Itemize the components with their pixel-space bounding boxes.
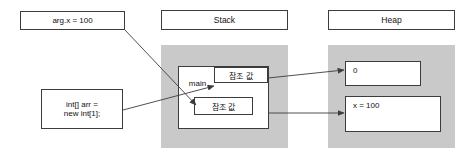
stack-slot-reference-bottom-text: 참조 값 [212,101,235,112]
stack-frame-main-label: main [181,76,214,90]
note-arg-assignment: arg.x = 100 [20,11,125,30]
frame-label-text: main [189,79,206,88]
stack-slot-reference-top: 참조 값 [214,67,268,83]
stack-header: Stack [161,10,288,30]
note-arg-text: arg.x = 100 [52,16,92,25]
memory-model-diagram: arg.x = 100 int[] arr = new int[1]; Stac… [0,0,466,158]
stack-slot-reference-bottom: 참조 값 [194,97,253,115]
heap-header: Heap [328,10,455,30]
heap-cell-object-text: x = 100 [353,101,379,110]
heap-header-label: Heap [381,15,401,25]
note-array-allocation: int[] arr = new int[1]; [41,89,123,129]
note-arr-text: int[] arr = new int[1]; [64,100,100,119]
stack-slot-reference-top-text: 참조 값 [229,70,252,81]
stack-header-label: Stack [214,15,235,25]
heap-cell-object: x = 100 [345,96,441,132]
heap-cell-array-text: 0 [353,66,357,75]
heap-cell-array: 0 [345,61,421,86]
